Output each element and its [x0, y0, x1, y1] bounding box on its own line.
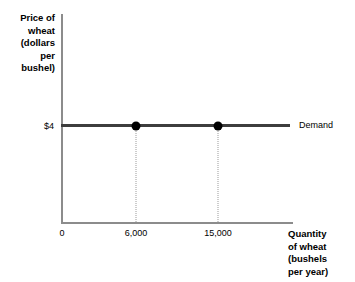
- x-axis-title-line-3: (bushels: [288, 253, 354, 266]
- dropline-6000: [136, 128, 137, 222]
- x-axis-title: Quantity of wheat (bushels per year): [288, 228, 354, 278]
- y-axis-title-line-3: (dollars: [0, 37, 55, 50]
- y-axis-title-line-1: Price of: [0, 12, 55, 25]
- y-axis-title-line-5: bushel): [0, 62, 55, 75]
- x-tick-label-0: 0: [59, 228, 64, 238]
- y-axis-title: Price of wheat (dollars per bushel): [0, 12, 55, 75]
- wheat-demand-chart: Price of wheat (dollars per bushel) Quan…: [0, 0, 355, 282]
- y-tick-label-4: $4: [26, 121, 54, 131]
- x-axis-line: [61, 222, 293, 224]
- data-point-marker-6000: [132, 121, 141, 130]
- y-axis-line: [61, 14, 63, 224]
- y-axis-title-line-4: per: [0, 50, 55, 63]
- data-point-marker-15000: [214, 121, 223, 130]
- x-tick-label-6000: 6,000: [125, 228, 148, 238]
- demand-curve-label: Demand: [299, 120, 333, 130]
- x-axis-title-line-4: per year): [288, 266, 354, 279]
- y-axis-title-line-2: wheat: [0, 25, 55, 38]
- x-tick-label-15000: 15,000: [204, 228, 232, 238]
- demand-curve-line: [61, 124, 290, 127]
- x-axis-title-line-1: Quantity: [288, 228, 354, 241]
- dropline-15000: [218, 128, 219, 222]
- x-axis-title-line-2: of wheat: [288, 241, 354, 254]
